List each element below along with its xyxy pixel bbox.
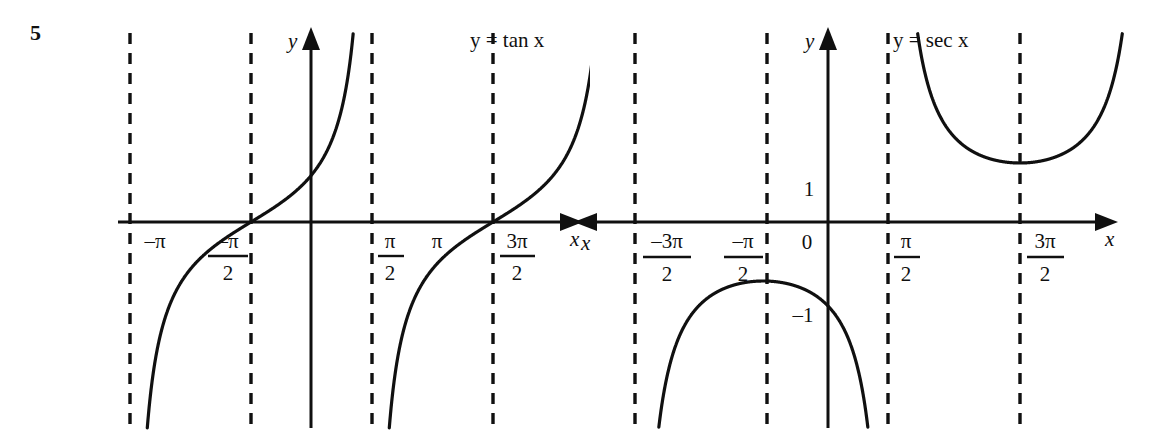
y-axis-arrowhead (819, 27, 837, 50)
tan-function-label: y = tan x (470, 28, 545, 52)
y-label-one: 1 (804, 177, 815, 201)
fraction-numerator: π (901, 229, 912, 253)
tick-label-pi-over-2: π 2 (378, 229, 404, 285)
fraction-denominator: 2 (385, 261, 396, 285)
fraction-denominator: 2 (662, 262, 673, 286)
tick-label-neg-pi: –π (143, 229, 166, 253)
fraction-denominator: 2 (901, 262, 912, 286)
fraction-numerator: π (385, 229, 396, 253)
tangent-graph-panel: x y –π –π 2 π 2 π 3π 2 y = tan x (0, 0, 590, 431)
x-axis-label-left: x (580, 231, 591, 255)
tick-label-neg-pi-over-2: –π 2 (724, 229, 763, 286)
tick-label-3pi-over-2: 3π 2 (500, 229, 535, 285)
x-axis-label-right: x (1104, 227, 1115, 251)
fraction-denominator: 2 (1040, 262, 1051, 286)
y-axis-label: y (803, 29, 815, 53)
fraction-denominator: 2 (738, 262, 749, 286)
sec-function-label: y = sec x (893, 28, 969, 52)
secant-graph-panel: x x y –3π 2 –π 2 0 π 2 3π 2 (575, 0, 1150, 431)
tick-label-pi: π (432, 229, 443, 253)
fraction-numerator: 3π (506, 229, 528, 253)
y-axis-arrowhead (302, 27, 320, 50)
tan-branch-center (389, 34, 590, 428)
figure-container: 5 x y –π –π 2 π 2 π (0, 0, 1150, 431)
y-axis-label: y (286, 29, 298, 53)
origin-label: 0 (802, 230, 813, 254)
y-label-negative-one: –1 (792, 303, 814, 327)
fraction-numerator: –π (731, 229, 754, 253)
sec-branch-left-arch (659, 281, 868, 427)
tick-label-neg-3pi-over-2: –3π 2 (643, 229, 691, 286)
tick-label-pi-over-2: π 2 (894, 229, 920, 286)
tick-label-neg-pi-over-2: –π 2 (208, 229, 248, 285)
x-axis-arrowhead-left (575, 213, 597, 231)
fraction-numerator: –3π (650, 229, 683, 253)
tan-branch-left (147, 34, 353, 428)
tick-label-3pi-over-2: 3π 2 (1027, 229, 1064, 286)
fraction-numerator: 3π (1034, 229, 1056, 253)
fraction-denominator: 2 (223, 261, 234, 285)
fraction-numerator: –π (216, 229, 239, 253)
fraction-denominator: 2 (512, 261, 523, 285)
